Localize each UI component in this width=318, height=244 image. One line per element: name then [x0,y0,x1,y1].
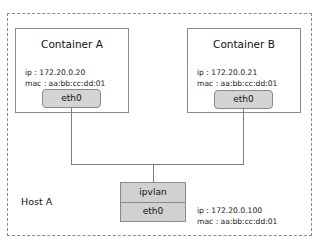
container-a-info: ip : 172.20.0.20 mac : aa:bb:cc:dd:01 [25,67,105,89]
host-info: ip : 172.20.0.100 mac : aa:bb:cc:dd:01 [197,205,277,227]
connector-a-vertical [71,108,72,165]
host-mac: mac : aa:bb:cc:dd:01 [197,216,277,227]
ipvlan-interface: ipvlan [121,183,185,203]
container-a-mac: mac : aa:bb:cc:dd:01 [25,78,105,89]
container-a-title: Container A [16,38,128,50]
host-interface-stack: ipvlan eth0 [120,182,186,222]
connector-host-vertical [153,164,154,182]
container-b-title: Container B [188,38,300,50]
container-a-ip: ip : 172.20.0.20 [25,67,105,78]
host-ip: ip : 172.20.0.100 [197,205,277,216]
host-eth0-interface: eth0 [121,202,185,221]
container-a-eth0: eth0 [42,89,101,108]
container-b-ip: ip : 172.20.0.21 [197,67,277,78]
connector-b-vertical [243,108,244,165]
container-b-mac: mac : aa:bb:cc:dd:01 [197,78,277,89]
container-b-eth0: eth0 [214,90,273,109]
connector-horizontal [71,164,244,165]
container-b-info: ip : 172.20.0.21 mac : aa:bb:cc:dd:01 [197,67,277,89]
host-label: Host A [21,196,52,207]
